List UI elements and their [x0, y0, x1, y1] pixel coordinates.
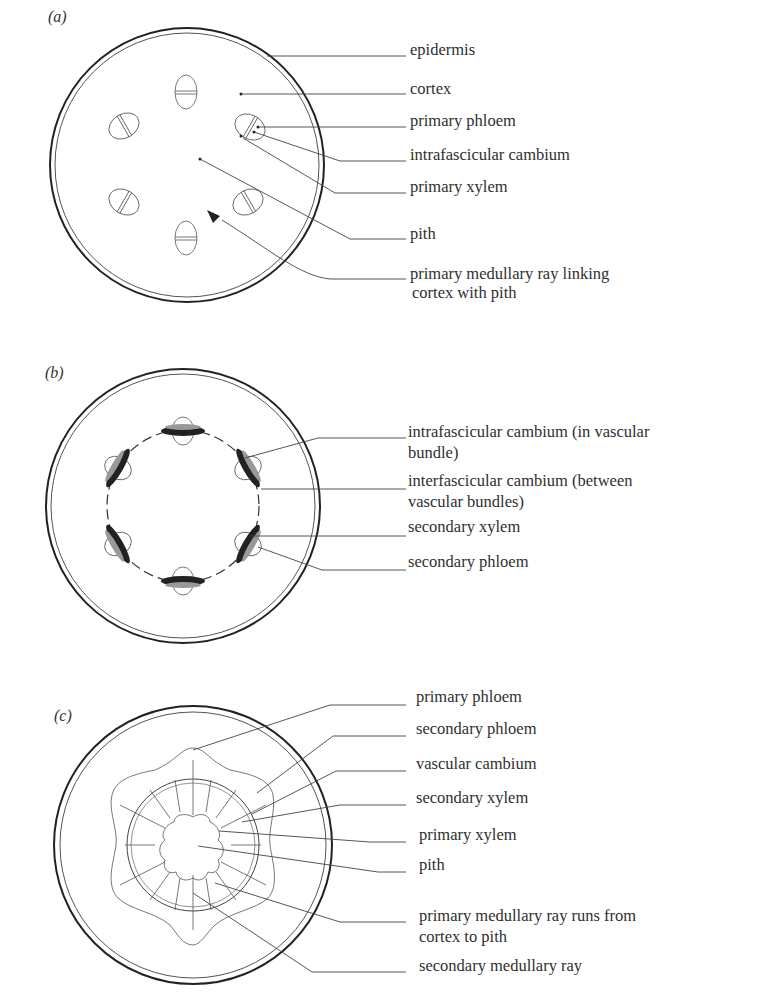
- label-primary-phloem: primary phloem: [410, 111, 516, 130]
- panel-a-label: (a): [48, 8, 67, 26]
- label-primary-medullary-ray-line2: cortex with pith: [412, 283, 516, 302]
- label-interfascicular-cambium: interfascicular cambium (between: [408, 471, 632, 490]
- label-primary-medullary-ray: primary medullary ray linking: [410, 264, 609, 283]
- panel-b-label: (b): [45, 364, 64, 382]
- label-secondary-medullary-ray: secondary medullary ray: [419, 956, 582, 975]
- vascular-bundles-b: [95, 417, 271, 595]
- label-secondary-xylem-c: secondary xylem: [416, 788, 528, 807]
- label-intrafascicular-cambium: intrafascicular cambium: [410, 145, 570, 164]
- stem-cross-section-diagram: [0, 0, 758, 1008]
- label-primary-medullary-ray-c: primary medullary ray runs from: [419, 906, 636, 925]
- label-intrafascicular-cambium-b-line2: bundle): [408, 443, 458, 462]
- label-interfascicular-cambium-line2: vascular bundles): [408, 492, 524, 511]
- primary-xylem-star: [160, 815, 224, 880]
- panel-b-drawing: [46, 369, 406, 643]
- panel-c-label: (c): [54, 707, 72, 725]
- label-pith: pith: [410, 224, 436, 243]
- label-intrafascicular-cambium-b: intrafascicular cambium (in vascular: [408, 422, 649, 441]
- cambium-ring: [107, 430, 259, 582]
- medullary-rays: [120, 760, 266, 930]
- label-cortex: cortex: [410, 79, 451, 98]
- panel-c-leaders: [193, 705, 406, 972]
- panel-b-leaders: [245, 438, 406, 570]
- panel-c-drawing: [54, 705, 406, 984]
- label-primary-phloem-c: primary phloem: [416, 687, 522, 706]
- label-pith-c: pith: [419, 855, 445, 874]
- label-primary-medullary-ray-c-line2: cortex to pith: [419, 927, 507, 946]
- vascular-bundles: [104, 75, 270, 255]
- arrow-icon: [207, 210, 220, 223]
- label-primary-xylem: primary xylem: [410, 177, 508, 196]
- label-secondary-phloem-c: secondary phloem: [416, 719, 537, 738]
- label-secondary-xylem-b: secondary xylem: [408, 517, 520, 536]
- epidermis-outline-b: [46, 369, 320, 643]
- label-secondary-phloem-b: secondary phloem: [408, 552, 529, 571]
- label-vascular-cambium: vascular cambium: [416, 754, 537, 773]
- label-epidermis: epidermis: [410, 40, 475, 59]
- panel-a-drawing: [50, 28, 406, 302]
- epidermis-outline: [50, 28, 324, 302]
- label-primary-xylem-c: primary xylem: [419, 825, 517, 844]
